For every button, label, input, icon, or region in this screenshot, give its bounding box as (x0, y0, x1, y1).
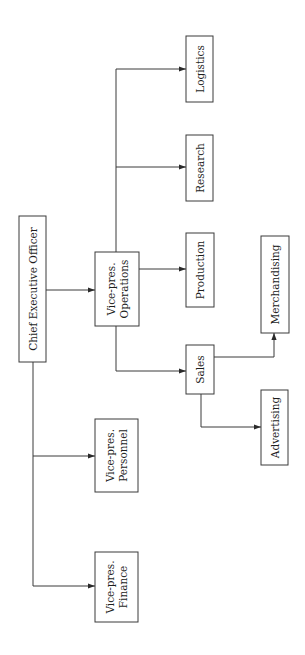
node-label: Sales (194, 355, 206, 383)
node-label: Vice-pres. (104, 560, 116, 614)
arrowhead-icon (88, 287, 95, 292)
arrowhead-icon (88, 583, 95, 588)
arrowhead-icon (179, 368, 186, 373)
connector-line (201, 394, 261, 427)
connector-line (33, 362, 95, 456)
connector-vp-operations-to-logistics (116, 66, 186, 252)
connector-sales-to-advertising (201, 394, 261, 430)
node-vp-finance: Vice-pres.Finance (95, 552, 138, 622)
connector-vp-operations-to-sales (116, 326, 186, 374)
node-label: Chief Executive Officer (27, 226, 39, 351)
node-vp-operations: Vice-pres.Operations (95, 252, 139, 326)
connector-vp-operations-to-research (116, 164, 186, 169)
node-label: Merchandising (269, 244, 281, 324)
connector-line (116, 326, 186, 371)
node-merchandising: Merchandising (261, 236, 289, 333)
nodes: Chief Executive OfficerVice-pres.Operati… (19, 36, 289, 622)
connector-ceo-to-vp-personnel (33, 362, 95, 459)
connector-ceo-to-vp-operations (46, 287, 95, 292)
arrowhead-icon (271, 333, 276, 340)
node-ceo: Chief Executive Officer (19, 216, 46, 362)
node-label: Personnel (117, 429, 129, 482)
node-label: Finance (117, 566, 129, 609)
arrowhead-icon (179, 266, 186, 271)
node-logistics: Logistics (186, 36, 213, 102)
arrowhead-icon (254, 424, 261, 429)
connector-sales-to-merchandising (214, 333, 277, 357)
connector-ceo-to-vp-finance (33, 456, 95, 589)
node-production: Production (186, 233, 214, 307)
node-sales: Sales (186, 345, 214, 394)
arrowhead-icon (179, 66, 186, 71)
node-label: Vice-pres. (104, 429, 116, 483)
node-label: Logistics (194, 45, 206, 93)
node-vp-personnel: Vice-pres.Personnel (95, 419, 138, 492)
node-research: Research (186, 135, 213, 201)
connector-vp-operations-to-production (139, 266, 186, 271)
connector-line (214, 333, 274, 357)
connector-line (33, 456, 95, 586)
arrowhead-icon (179, 164, 186, 169)
arrowhead-icon (88, 453, 95, 458)
node-label: Advertising (269, 397, 281, 460)
node-label: Operations (118, 260, 130, 319)
connector-line (116, 69, 186, 252)
node-advertising: Advertising (261, 390, 288, 465)
node-label: Vice-pres. (105, 262, 117, 316)
connectors (33, 66, 277, 588)
node-label: Research (194, 143, 206, 193)
node-label: Production (194, 241, 206, 300)
org-chart: Chief Executive OfficerVice-pres.Operati… (0, 0, 305, 655)
